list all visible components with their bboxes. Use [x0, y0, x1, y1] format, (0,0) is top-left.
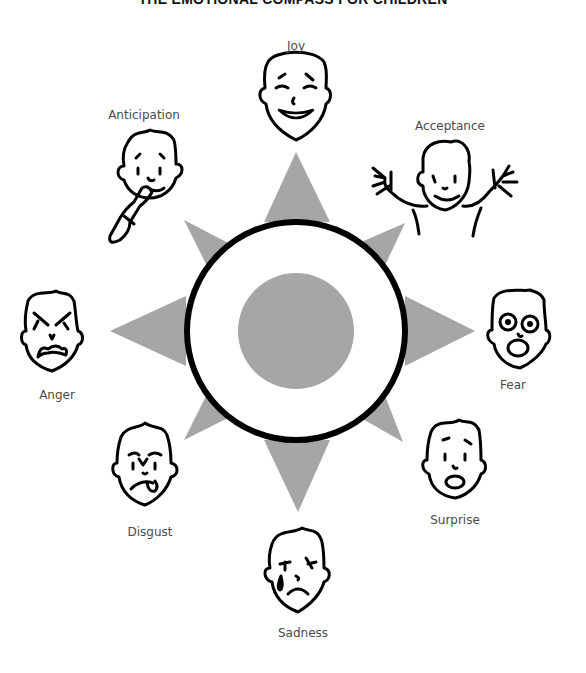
- acceptance-face-icon: [373, 141, 517, 236]
- star-point-south: [264, 440, 330, 512]
- disgust-face-icon: [113, 423, 177, 505]
- sadness-face-icon: [265, 528, 329, 612]
- label-surprise: Surprise: [430, 513, 480, 527]
- label-acceptance: Acceptance: [415, 119, 485, 133]
- label-joy: Joy: [287, 39, 305, 53]
- star-point-north: [264, 152, 330, 222]
- fear-face-icon: [488, 290, 550, 368]
- star-point-west: [110, 296, 186, 366]
- surprise-face-icon: [423, 420, 486, 498]
- star-point-east: [405, 296, 475, 366]
- label-anger: Anger: [39, 388, 75, 402]
- emotional-compass: [0, 0, 586, 673]
- label-disgust: Disgust: [127, 525, 172, 539]
- label-sadness: Sadness: [278, 626, 328, 640]
- anticipation-face-icon: [110, 130, 182, 242]
- anger-face-icon: [22, 291, 83, 371]
- compass-center-disc: [238, 273, 354, 389]
- joy-face-icon: [260, 52, 331, 140]
- label-fear: Fear: [500, 378, 526, 392]
- label-anticipation: Anticipation: [108, 108, 180, 122]
